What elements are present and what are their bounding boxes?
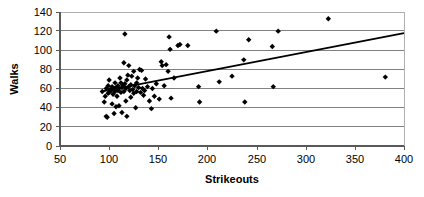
y-tick-label-60: 60	[40, 82, 52, 94]
x-tick-label-250: 250	[248, 153, 266, 165]
x-tick-label-150: 150	[149, 153, 167, 165]
x-tick-label-350: 350	[346, 153, 364, 165]
y-axis-title: Walks	[8, 63, 20, 94]
x-tick-label-300: 300	[297, 153, 315, 165]
x-axis-tick-labels: 50 100 150 200 250 300 350 400	[54, 153, 413, 165]
plot-svg: 140 120 100 80 60 40 20 0 50 100 150 200…	[0, 0, 424, 197]
x-tick-label-50: 50	[54, 153, 66, 165]
y-tick-label-20: 20	[40, 121, 52, 133]
x-axis-title: Strikeouts	[205, 173, 259, 185]
y-axis-ticks	[56, 12, 60, 146]
y-tick-label-40: 40	[40, 101, 52, 113]
x-tick-label-200: 200	[198, 153, 216, 165]
plot-area-background	[60, 12, 404, 146]
y-tick-label-140: 140	[34, 6, 52, 18]
y-axis-tick-labels: 140 120 100 80 60 40 20 0	[34, 6, 52, 152]
y-tick-label-120: 120	[34, 25, 52, 37]
x-axis-ticks	[60, 146, 404, 150]
y-tick-label-0: 0	[46, 140, 52, 152]
y-tick-label-100: 100	[34, 44, 52, 56]
y-tick-label-80: 80	[40, 63, 52, 75]
scatter-chart: 140 120 100 80 60 40 20 0 50 100 150 200…	[0, 0, 424, 197]
x-tick-label-100: 100	[100, 153, 118, 165]
x-tick-label-400: 400	[395, 153, 413, 165]
